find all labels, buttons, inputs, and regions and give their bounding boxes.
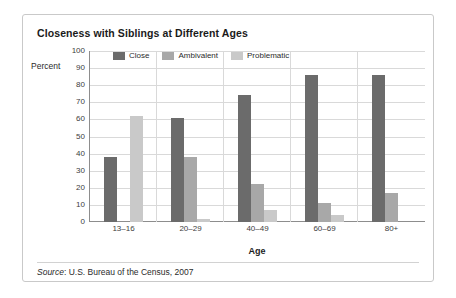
bar-group — [90, 51, 157, 222]
x-tick-label: 60–69 — [291, 224, 358, 233]
x-tick-label: 20–29 — [157, 224, 224, 233]
y-tick-label: 40 — [59, 150, 85, 158]
bar[interactable] — [318, 203, 331, 222]
bar-groups — [90, 51, 425, 222]
bar-group — [224, 51, 291, 222]
source-label: Source — [37, 267, 64, 277]
x-axis-ticks: 13–1620–2940–4960–6980+ — [90, 224, 425, 233]
bar[interactable] — [104, 157, 117, 222]
bar-group — [291, 51, 358, 222]
bar[interactable] — [130, 116, 143, 222]
bar[interactable] — [264, 210, 277, 222]
legend-swatch-icon — [162, 52, 174, 60]
bar-group — [358, 51, 425, 222]
source-note: Source: U.S. Bureau of the Census, 2007 — [37, 267, 193, 277]
y-tick-label: 10 — [59, 201, 85, 209]
bar[interactable] — [238, 95, 251, 222]
y-tick-label: 20 — [59, 184, 85, 192]
y-tick-label: 30 — [59, 167, 85, 175]
footer-divider — [37, 262, 419, 263]
bar[interactable] — [372, 75, 385, 222]
legend-item[interactable]: Ambivalent — [162, 51, 218, 60]
figure-frame: Closeness with Siblings at Different Age… — [22, 14, 434, 282]
bar[interactable] — [331, 215, 344, 222]
y-axis-title: Percent — [31, 61, 60, 71]
y-tick-label: 0 — [59, 218, 85, 226]
bar[interactable] — [184, 157, 197, 222]
legend-swatch-icon — [113, 52, 125, 60]
y-tick-label: 90 — [59, 64, 85, 72]
y-tick-label: 100 — [59, 47, 85, 55]
y-axis-ticks: 0102030405060708090100 — [59, 51, 85, 222]
bar[interactable] — [305, 75, 318, 222]
y-tick-label: 70 — [59, 98, 85, 106]
x-tick-label: 13–16 — [90, 224, 157, 233]
x-tick-label: 80+ — [358, 224, 425, 233]
bar[interactable] — [197, 219, 210, 222]
legend-label: Close — [129, 51, 149, 60]
chart-plot: Percent 0102030405060708090100 CloseAmbi… — [23, 15, 435, 283]
bar[interactable] — [385, 193, 398, 222]
chart-legend: CloseAmbivalentProblematic — [113, 51, 289, 60]
legend-item[interactable]: Problematic — [231, 51, 289, 60]
y-tick-label: 50 — [59, 133, 85, 141]
bar-group — [157, 51, 224, 222]
legend-item[interactable]: Close — [113, 51, 149, 60]
legend-label: Ambivalent — [178, 51, 218, 60]
x-tick-label: 40–49 — [224, 224, 291, 233]
bar[interactable] — [251, 184, 264, 222]
y-tick-label: 60 — [59, 115, 85, 123]
legend-swatch-icon — [231, 52, 243, 60]
source-text: : U.S. Bureau of the Census, 2007 — [64, 267, 193, 277]
bar[interactable] — [171, 118, 184, 222]
x-axis-title: Age — [89, 246, 425, 256]
legend-label: Problematic — [247, 51, 289, 60]
y-tick-label: 80 — [59, 81, 85, 89]
